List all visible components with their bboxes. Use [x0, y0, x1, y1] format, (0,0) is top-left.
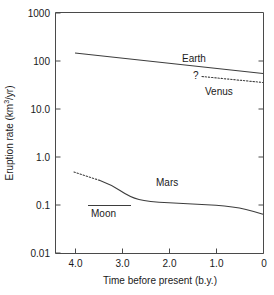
series-line-earth [75, 53, 263, 74]
eruption-rate-chart-figure: 1000 100 10.0 1.0 0.1 0.01 4.0 3.0 2.0 1… [0, 0, 274, 295]
y-tick-label: 0.01 [31, 248, 51, 259]
y-axis-tick-labels: 1000 100 10.0 1.0 0.1 0.01 [28, 8, 51, 259]
x-axis-tick-labels: 4.0 3.0 2.0 1.0 0 [69, 258, 268, 269]
x-tick-label: 1.0 [210, 258, 224, 269]
x-axis-title: Time before present (b.y.) [103, 275, 217, 286]
uncertainty-marker-annotation: ? [193, 70, 199, 81]
series-line-mars [100, 181, 263, 215]
series-line-mars-extrapolated [74, 172, 100, 181]
y-tick-label: 0.1 [36, 200, 50, 211]
y-axis-title-base: Eruption rate (km [4, 104, 15, 181]
y-axis-title: Eruption rate (km3/yr) [3, 85, 15, 180]
x-tick-label: 2.0 [163, 258, 177, 269]
x-tick-label: 3.0 [116, 258, 130, 269]
plot-frame [56, 13, 264, 254]
series-label-mars: Mars [156, 177, 178, 188]
y-tick-label: 100 [33, 56, 50, 67]
y-tick-label: 1000 [28, 8, 51, 19]
y-axis-title-tail: /yr) [4, 85, 15, 99]
series-line-venus [202, 77, 263, 83]
x-tick-label: 0 [261, 258, 267, 269]
y-axis-ticks [56, 13, 264, 253]
y-tick-label: 1.0 [36, 152, 50, 163]
series-label-earth: Earth [182, 53, 206, 64]
series-label-moon: Moon [91, 208, 116, 219]
chart-canvas: 1000 100 10.0 1.0 0.1 0.01 4.0 3.0 2.0 1… [0, 0, 274, 295]
svg-text:Eruption rate (km3/yr): Eruption rate (km3/yr) [3, 85, 15, 180]
series-label-venus: Venus [205, 86, 233, 97]
y-tick-label: 10.0 [31, 104, 51, 115]
x-tick-label: 4.0 [69, 258, 83, 269]
x-axis-ticks [76, 249, 264, 254]
